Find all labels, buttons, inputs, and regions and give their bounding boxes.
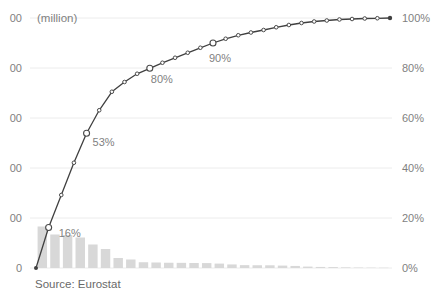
line-start-marker [34,266,38,270]
bar [63,235,72,268]
line-marker [59,193,63,197]
line-marker-highlight [84,130,90,136]
y-axis-left-tick-label: 00 [10,12,22,24]
bar [290,266,299,268]
line-marker [199,46,203,50]
line-marker-highlight [210,40,216,46]
bar [88,245,97,269]
line-marker [312,20,316,24]
line-marker [186,51,190,55]
line-marker [161,61,165,65]
line-marker [236,33,240,37]
line-marker [123,80,127,84]
line-marker [262,28,266,32]
y-axis-left-tick-label: 00 [10,162,22,174]
line-marker-highlight [46,225,52,231]
line-marker [338,18,342,22]
axis-unit-label: (million) [37,12,77,24]
line-end-marker [388,16,392,20]
line-marker [135,72,139,76]
y-axis-right-tick-label: 80% [402,62,424,74]
line-marker [376,16,380,20]
y-axis-left-tick-label: 00 [10,212,22,224]
bar [76,238,85,269]
data-point-callout: 16% [59,227,81,239]
bar [215,264,224,268]
line-marker [110,90,114,94]
annotations: 16%53%80%90% [59,52,232,239]
line-marker [325,19,329,23]
bar [328,267,337,268]
data-point-callout: 53% [93,136,115,148]
line-marker [300,21,304,25]
line-marker [350,17,354,21]
y-axis-right-tick-label: 60% [402,112,424,124]
y-axis-left-tick-label: 0 [16,262,22,274]
bar [265,265,274,268]
data-point-callout: 80% [151,73,173,85]
bar [50,235,59,269]
bar [189,263,198,268]
bar [164,263,173,268]
line-marker [274,25,278,29]
bar [341,267,350,268]
line-marker [72,161,76,165]
bars [38,227,389,269]
line-marker [363,17,367,21]
bar [253,265,262,268]
data-point-callout: 90% [209,52,231,64]
line-marker-highlight [147,65,153,71]
axis-right: 100%80%60%40%20%0% [402,12,430,274]
y-axis-right-tick-label: 100% [402,12,430,24]
y-axis-right-tick-label: 20% [402,212,424,224]
y-axis-right-tick-label: 0% [402,262,418,274]
bar [113,258,122,268]
source-note: Source: Eurostat [35,278,121,290]
bar [303,267,312,268]
line-marker [173,56,177,60]
bar [177,263,186,268]
y-axis-left-tick-label: 00 [10,112,22,124]
line-marker [249,31,253,35]
line-marker [224,37,228,41]
bar [278,266,287,268]
bar [202,263,211,268]
chart-canvas: 00000000000 100%80%60%40%20%0% 16%53%80%… [0,0,437,294]
bar [126,260,135,269]
y-axis-left-tick-label: 00 [10,62,22,74]
y-axis-right-tick-label: 40% [402,162,424,174]
bar [151,263,160,269]
line-marker [287,23,291,27]
bar [101,249,110,268]
bar [139,262,148,268]
bar [316,267,325,268]
line-marker [97,108,101,112]
axis-left: 00000000000 [10,12,22,274]
bar [227,264,236,268]
bar [240,265,249,268]
pareto-chart: 00000000000 100%80%60%40%20%0% 16%53%80%… [0,0,437,294]
